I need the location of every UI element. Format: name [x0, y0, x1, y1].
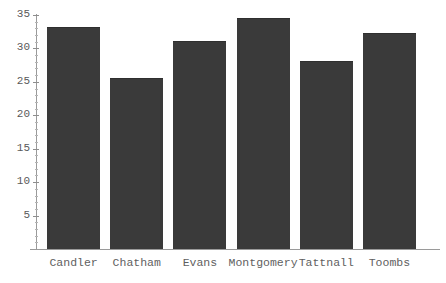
- y-tick-label: 5: [4, 210, 30, 221]
- y-minor-tick: [35, 102, 38, 103]
- x-axis-line: [30, 249, 440, 250]
- y-minor-tick: [35, 22, 38, 23]
- y-minor-tick: [35, 129, 38, 130]
- y-minor-tick: [35, 62, 38, 63]
- y-tick-label: 10: [4, 176, 30, 187]
- y-minor-tick: [35, 135, 38, 136]
- y-tick-mark: [33, 115, 39, 116]
- y-tick-label: 25: [4, 76, 30, 87]
- x-axis-labels: CandlerChathamEvansMontgomeryTattnallToo…: [0, 256, 446, 272]
- bar[interactable]: [300, 61, 353, 249]
- bar[interactable]: [110, 78, 163, 249]
- x-axis-label: Toombs: [329, 256, 446, 270]
- bar[interactable]: [47, 27, 100, 249]
- y-minor-tick: [35, 89, 38, 90]
- y-tick-label-wrap: 30: [0, 42, 30, 53]
- y-minor-tick: [35, 202, 38, 203]
- y-tick-label-wrap: 35: [0, 9, 30, 20]
- y-tick-mark: [33, 15, 39, 16]
- bar-series: [47, 0, 426, 249]
- y-tick-mark: [33, 182, 39, 183]
- plot-area: 5101520253035 CandlerChathamEvansMontgom…: [0, 0, 446, 283]
- y-minor-tick: [35, 28, 38, 29]
- y-tick-label: 30: [4, 42, 30, 53]
- y-minor-tick: [35, 55, 38, 56]
- y-minor-tick: [35, 109, 38, 110]
- y-minor-tick: [35, 169, 38, 170]
- y-minor-tick: [35, 42, 38, 43]
- y-minor-tick: [35, 35, 38, 36]
- y-minor-tick: [35, 68, 38, 69]
- y-tick-mark: [33, 149, 39, 150]
- y-minor-tick: [35, 189, 38, 190]
- y-tick-mark: [33, 82, 39, 83]
- y-minor-tick: [35, 242, 38, 243]
- y-tick-label-wrap: 5: [0, 210, 30, 221]
- y-minor-tick: [35, 196, 38, 197]
- y-tick-mark: [33, 216, 39, 217]
- y-minor-tick: [35, 222, 38, 223]
- y-minor-tick: [35, 155, 38, 156]
- y-minor-tick: [35, 162, 38, 163]
- y-minor-tick: [35, 142, 38, 143]
- y-minor-tick: [35, 175, 38, 176]
- y-minor-tick: [35, 229, 38, 230]
- bar[interactable]: [237, 18, 290, 249]
- bar-chart: 5101520253035 CandlerChathamEvansMontgom…: [0, 0, 446, 283]
- y-minor-tick: [35, 209, 38, 210]
- y-tick-label-wrap: 20: [0, 109, 30, 120]
- y-tick-label: 15: [4, 143, 30, 154]
- y-tick-label-wrap: 10: [0, 176, 30, 187]
- y-minor-tick: [35, 75, 38, 76]
- y-tick-label-wrap: 25: [0, 76, 30, 87]
- y-minor-tick: [35, 122, 38, 123]
- bar[interactable]: [173, 41, 226, 249]
- bar[interactable]: [363, 33, 416, 249]
- y-minor-tick: [35, 236, 38, 237]
- y-tick-label: 20: [4, 109, 30, 120]
- y-minor-tick: [35, 95, 38, 96]
- y-tick-label: 35: [4, 9, 30, 20]
- y-tick-label-wrap: 15: [0, 143, 30, 154]
- y-tick-mark: [33, 48, 39, 49]
